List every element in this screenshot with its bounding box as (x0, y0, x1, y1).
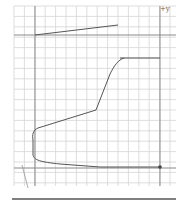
outline-curve (33, 25, 160, 167)
grid-lines (14, 6, 176, 186)
axis-label: +y (160, 5, 170, 13)
origin-point (158, 165, 162, 169)
coordinate-diagram (0, 0, 186, 206)
axis-lines (14, 6, 176, 186)
